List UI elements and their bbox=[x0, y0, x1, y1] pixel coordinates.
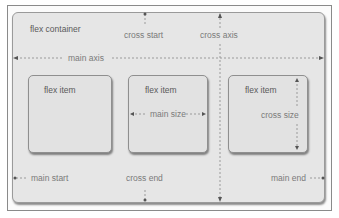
cross-size-label: cross size bbox=[261, 111, 299, 120]
cross-start-label: cross start bbox=[124, 31, 163, 40]
main-start-label: main start bbox=[31, 174, 68, 183]
main-end-label: main end bbox=[271, 174, 306, 183]
main-axis-label: main axis bbox=[68, 54, 104, 63]
cross-axis-label: cross axis bbox=[200, 31, 238, 40]
main-size-label: main size bbox=[150, 110, 186, 119]
cross-end-label: cross end bbox=[126, 174, 163, 183]
